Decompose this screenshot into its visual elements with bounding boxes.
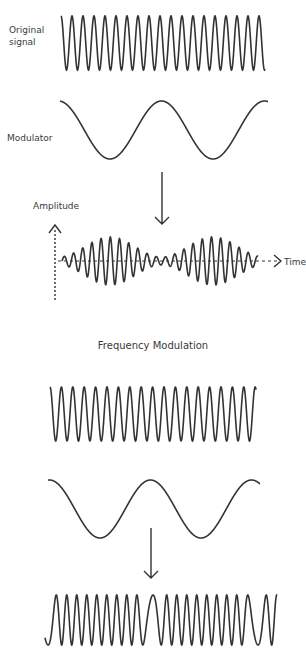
fm-modulator-wave [48,480,260,538]
modulator-wave [60,101,268,159]
down-arrow-icon [155,172,169,224]
fm-modulated-wave [45,595,277,645]
modulation-diagram [0,0,306,666]
carrier-signal-wave [61,16,265,70]
fm-down-arrow-icon [144,528,158,578]
fm-carrier-wave [50,387,256,441]
